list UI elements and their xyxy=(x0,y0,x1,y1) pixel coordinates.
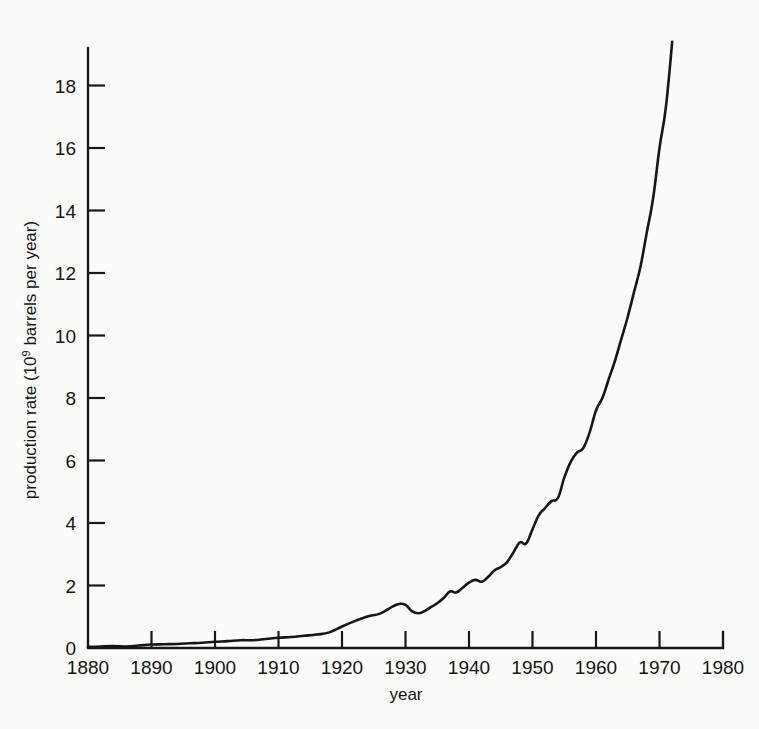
y-tick-label: 2 xyxy=(65,576,76,597)
y-tick-label: 8 xyxy=(65,388,76,409)
y-tick-label: 16 xyxy=(55,138,76,159)
axis-frame xyxy=(88,48,723,648)
y-tick-label: 14 xyxy=(55,201,77,222)
x-tick-label: 1920 xyxy=(321,657,363,678)
y-axis-title: production rate (109 barrels per year) xyxy=(20,221,40,499)
x-tick-label: 1970 xyxy=(638,657,680,678)
x-tick-label: 1960 xyxy=(575,657,617,678)
line-chart-svg: 024681012141618 188018901900191019201930… xyxy=(0,0,759,729)
chart-figure: 024681012141618 188018901900191019201930… xyxy=(0,0,759,729)
y-axis-title-suffix: barrels per year) xyxy=(21,221,40,350)
x-tick-label: 1930 xyxy=(384,657,426,678)
y-tick-label: 10 xyxy=(55,326,76,347)
x-tick-label: 1940 xyxy=(448,657,490,678)
y-tick-group: 024681012141618 xyxy=(55,76,105,660)
x-tick-label: 1900 xyxy=(194,657,236,678)
x-tick-label: 1980 xyxy=(702,657,744,678)
y-tick-label: 4 xyxy=(65,513,76,534)
x-tick-label: 1890 xyxy=(130,657,172,678)
y-tick-label: 12 xyxy=(55,263,76,284)
x-tick-label: 1950 xyxy=(511,657,553,678)
x-tick-label: 1880 xyxy=(67,657,109,678)
x-tick-label: 1910 xyxy=(257,657,299,678)
y-axis-title-prefix: production rate (10 xyxy=(21,356,40,499)
x-tick-group: 1880189019001910192019301940195019601970… xyxy=(67,631,744,678)
y-tick-label: 6 xyxy=(65,451,76,472)
y-tick-label: 0 xyxy=(65,638,76,659)
x-axis-title: year xyxy=(389,685,422,704)
y-tick-label: 18 xyxy=(55,76,76,97)
production-rate-curve xyxy=(88,42,672,647)
